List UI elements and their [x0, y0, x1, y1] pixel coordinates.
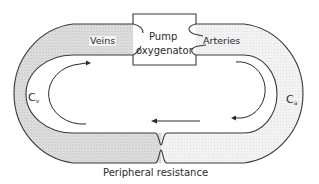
pump-label: Pump — [149, 32, 177, 42]
cv-subscript: v — [36, 97, 40, 104]
veins-label: Veins — [89, 36, 116, 46]
cv-main: C — [28, 91, 36, 104]
ca-main: C — [286, 93, 294, 106]
ca-subscript: a — [294, 99, 298, 106]
flow-arrows — [49, 61, 266, 125]
venous-return-arrow — [49, 63, 86, 124]
arrowhead-left-icon — [231, 116, 236, 121]
circulation-diagram: Veins Arteries Pump oxygenator Cv Ca Per… — [0, 0, 319, 184]
arterial-compliance-label: Ca — [286, 94, 297, 106]
arteries-label: Arteries — [203, 36, 240, 46]
arrowhead-left-icon — [151, 119, 157, 124]
arrowhead-right-icon — [86, 61, 91, 66]
oxygenator-label: oxygenator — [136, 46, 193, 56]
venous-compliance-label: Cv — [28, 92, 39, 104]
diagram-svg — [0, 0, 319, 184]
peripheral-resistance-label: Peripheral resistance — [103, 168, 208, 178]
arterial-flow-arrow — [236, 62, 265, 118]
